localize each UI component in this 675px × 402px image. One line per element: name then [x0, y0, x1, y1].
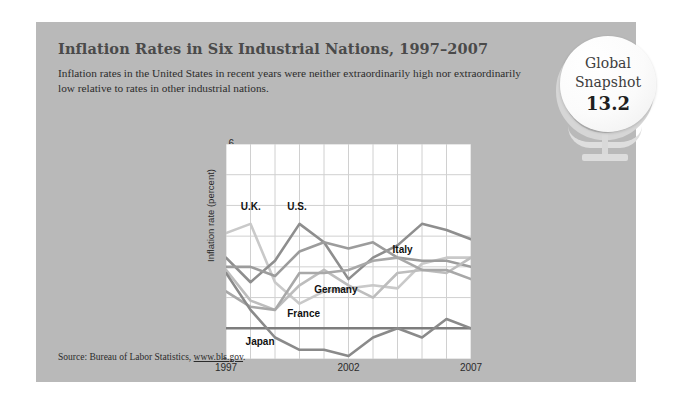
x-tick-label: 2007	[451, 362, 491, 373]
figure-panel: Inflation Rates in Six Industrial Nation…	[36, 22, 636, 382]
chart-svg	[226, 144, 471, 359]
source-suffix: .	[243, 352, 245, 362]
screenshot-root: Inflation Rates in Six Industrial Nation…	[0, 0, 675, 402]
badge-line-2: Snapshot	[575, 73, 641, 92]
page-title: Inflation Rates in Six Industrial Nation…	[58, 40, 538, 57]
globe-stand-post-icon	[602, 134, 608, 156]
globe-stand-base-icon	[582, 154, 628, 161]
series-label-italy: Italy	[393, 244, 413, 255]
globe-icon: Global Snapshot 13.2	[560, 36, 656, 132]
series-label-us: U.S.	[287, 201, 306, 212]
badge-number: 13.2	[586, 93, 630, 115]
series-label-japan: Japan	[246, 336, 275, 347]
x-tick-label: 2002	[329, 362, 369, 373]
series-label-france: France	[287, 308, 320, 319]
series-label-germany: Germany	[314, 284, 357, 295]
x-tick-label: 1997	[206, 362, 246, 373]
plot-area	[226, 144, 471, 359]
source-prefix: Source: Bureau of Labor Statistics,	[58, 352, 194, 362]
global-snapshot-badge: Global Snapshot 13.2	[542, 30, 668, 162]
badge-line-1: Global	[585, 54, 631, 73]
inflation-line-chart: Inflation rate (percent) 6543210−1 19972…	[186, 132, 486, 377]
series-label-uk: U.K.	[241, 201, 261, 212]
source-note: Source: Bureau of Labor Statistics, www.…	[58, 352, 245, 362]
source-link[interactable]: www.bls.gov	[194, 352, 243, 362]
figure-subtitle: Inflation rates in the United States in …	[58, 66, 528, 96]
